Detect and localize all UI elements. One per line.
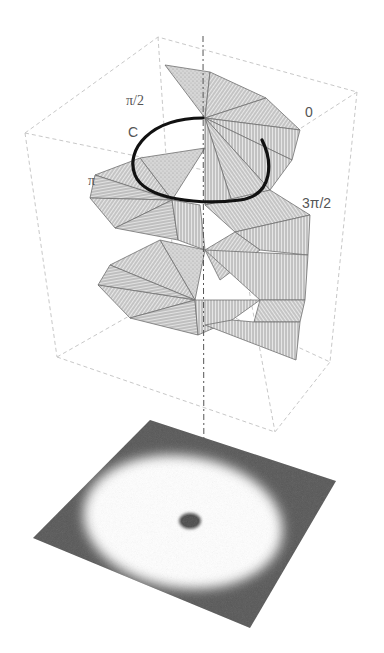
helicoid-diagram-svg [0,0,384,653]
label-pi: π [88,174,95,188]
helicoid-surface [90,65,310,360]
intensity-plane [33,420,336,628]
helicoid-figure: π/2 C π 0 3π/2 [0,0,384,653]
label-zero: 0 [305,105,313,119]
label-three-pi-half: 3π/2 [302,196,331,210]
label-loop-c: C [128,125,138,139]
label-pi-half: π/2 [126,94,144,108]
